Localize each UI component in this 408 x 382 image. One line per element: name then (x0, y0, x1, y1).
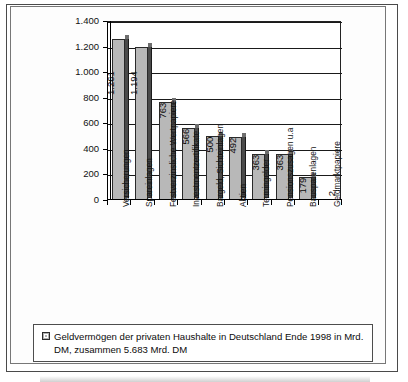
y-axis-tick-label: 800 (55, 93, 99, 102)
bar-top-face (148, 43, 152, 47)
x-axis-tick-mark (271, 200, 272, 205)
legend-box: Geldvermögen der privaten Haushalte in D… (33, 324, 373, 362)
y-axis-tick-label: 200 (55, 169, 99, 178)
x-axis-category-label: Festverzinsliche Wertpapiere (169, 100, 178, 207)
legend-swatch-icon (42, 332, 50, 340)
y-axis-tick-label: 1.200 (55, 42, 99, 51)
y-axis-tick-label: 1.000 (55, 67, 99, 76)
x-axis-category-label: Geldmarktpapiere (333, 141, 342, 207)
x-axis-category-label: Versicherungen (122, 149, 131, 207)
legend-entry: Geldvermögen der privaten Haushalte in D… (42, 330, 366, 356)
bar-top-face (195, 124, 199, 128)
y-axis-tick-label: 600 (55, 118, 99, 127)
bar-value-label: 492 (225, 141, 245, 154)
legend-label: Geldvermögen der privaten Haushalte in D… (54, 330, 366, 356)
bar-top-face (242, 133, 246, 137)
chart-page: 02004006008001.0001.2001.400 1.2611.1947… (0, 0, 408, 382)
gridline (108, 22, 342, 23)
x-axis-category-label: Bausparenlagen (309, 147, 318, 207)
bar-top-face (125, 35, 129, 39)
y-axis-tick-label: 400 (55, 144, 99, 153)
y-axis-line (110, 21, 111, 200)
x-axis-category-label: Investmentzertifikate (192, 131, 201, 207)
x-axis-category-label: Spareinlagen (145, 158, 154, 207)
x-axis-category-label: Termingelder (262, 159, 271, 207)
bar-value-label: 1.194 (126, 82, 157, 95)
y-axis-tick-label: 0 (55, 195, 99, 204)
x-axis-category-label: Bargeld, Sichteinlagen (216, 124, 225, 207)
x-axis-tick-mark (318, 200, 319, 205)
x-axis-tick-mark (154, 200, 155, 205)
x-axis-tick-mark (107, 200, 108, 205)
bar-top-face (265, 150, 269, 154)
y-axis-tick-label: 1.400 (55, 16, 99, 25)
x-axis-category-label: Aktien (239, 184, 248, 207)
x-axis-tick-mark (201, 200, 202, 205)
x-axis-category-label: Pensionszusagen u.a (286, 128, 295, 207)
